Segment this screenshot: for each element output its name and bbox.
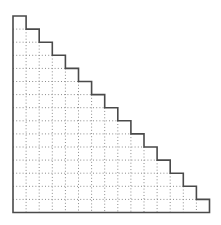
staircase-diagram	[0, 0, 221, 225]
staircase-outline	[13, 16, 210, 213]
staircase-grid-svg	[0, 0, 221, 225]
dotted-grid-lines	[13, 29, 196, 212]
